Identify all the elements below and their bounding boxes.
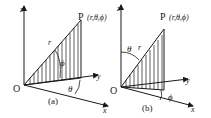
hatched-triangle bbox=[30, 24, 78, 84]
radius-label: r bbox=[48, 38, 52, 47]
radius-line bbox=[121, 29, 164, 87]
theta-arc bbox=[75, 80, 80, 94]
point-label: P bbox=[78, 11, 84, 22]
x-axis-arrow bbox=[24, 85, 108, 106]
point-label: P bbox=[160, 11, 166, 22]
radius-line bbox=[24, 20, 81, 85]
spherical-coordinates-diagram: z y x O P (r,θ,ϕ) r ϕ θ (a) z bbox=[0, 0, 211, 118]
y-axis-label: y bbox=[96, 72, 101, 81]
point-coords: (r,θ,ϕ) bbox=[169, 13, 189, 22]
y-axis-label: y bbox=[185, 76, 190, 85]
point-coords: (r,θ,ϕ) bbox=[87, 13, 107, 22]
z-axis-label: z bbox=[116, 4, 121, 13]
theta-label: θ bbox=[68, 84, 73, 94]
phi-arc bbox=[160, 90, 162, 100]
x-axis-label: x bbox=[102, 106, 107, 115]
origin-label: O bbox=[13, 83, 20, 94]
origin-label: O bbox=[110, 85, 117, 96]
theta-label: θ bbox=[127, 44, 132, 54]
phi-label: ϕ bbox=[168, 92, 173, 102]
phi-label: ϕ bbox=[60, 58, 65, 68]
y-axis-arrow bbox=[121, 79, 188, 87]
radius-label: r bbox=[138, 43, 142, 52]
x-axis-label: x bbox=[190, 105, 195, 114]
caption-b: (b) bbox=[142, 103, 153, 113]
figure-b: z y x O P (r,θ,ϕ) θ r ϕ (b) bbox=[110, 4, 195, 114]
z-axis-label: z bbox=[19, 5, 24, 14]
caption-a: (a) bbox=[48, 96, 58, 106]
y-axis-arrow bbox=[24, 75, 98, 85]
figure-a: z y x O P (r,θ,ϕ) r ϕ θ (a) bbox=[13, 5, 108, 115]
